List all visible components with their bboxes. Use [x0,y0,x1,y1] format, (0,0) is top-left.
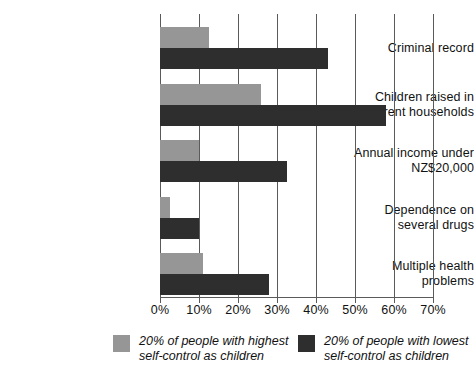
x-tick-label: 10% [179,303,219,317]
bar-group [160,197,433,239]
legend-label: 20% of people with highestself-control a… [139,334,288,363]
bar-lowest-self-control [160,274,269,295]
bar-lowest-self-control [160,161,287,182]
bar-lowest-self-control [160,48,328,69]
bar-chart: Criminal recordChildren raised insingle-… [0,0,474,385]
legend-label-line: self-control as children [139,349,288,364]
gridline-70pct [433,14,434,298]
x-tick-label: 60% [374,303,414,317]
bar-group [160,84,433,126]
legend-item: 20% of people with lowestself-control as… [298,334,469,363]
bar-highest-self-control [160,84,261,105]
legend-label-line: 20% of people with highest [139,334,288,349]
legend-label-line: 20% of people with lowest [324,334,469,349]
legend-label: 20% of people with lowestself-control as… [324,334,469,363]
x-tick-label: 0% [140,303,180,317]
bar-highest-self-control [160,140,199,161]
legend-label-line: self-control as children [324,349,469,364]
bar-group [160,253,433,295]
x-tick-label: 30% [257,303,297,317]
x-tick-label: 70% [413,303,453,317]
axis-baseline [160,297,433,298]
bar-group [160,27,433,69]
legend-item: 20% of people with highestself-control a… [113,334,288,363]
bar-highest-self-control [160,197,170,218]
bar-highest-self-control [160,27,209,48]
legend-swatch [298,335,315,352]
x-tick-label: 50% [335,303,375,317]
legend-swatch [113,335,130,352]
bar-highest-self-control [160,253,203,274]
x-tick-label: 40% [296,303,336,317]
x-tick-label: 20% [218,303,258,317]
plot-area [160,14,433,298]
bar-lowest-self-control [160,218,199,239]
bar-lowest-self-control [160,105,386,126]
bar-group [160,140,433,182]
